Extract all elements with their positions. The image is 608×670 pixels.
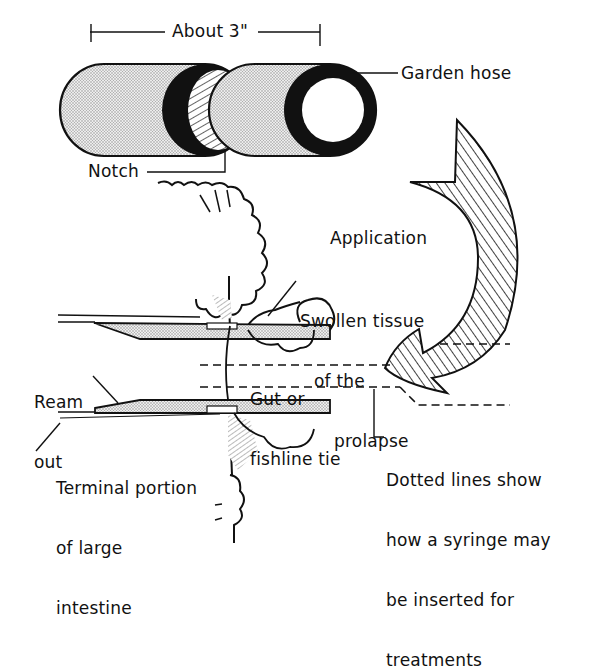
terminal-portion-line-3: intestine xyxy=(56,598,197,618)
note-line-4: treatments xyxy=(386,650,551,670)
gut-tie-label: Gut or fishline tie xyxy=(250,349,341,489)
terminal-portion-line-2: of large xyxy=(56,538,197,558)
dimension-label: About 3" xyxy=(172,21,248,41)
terminal-portion-label: Terminal portion of large intestine xyxy=(56,438,197,638)
terminal-portion-line-1: Terminal portion xyxy=(56,478,197,498)
hose-section-end xyxy=(209,64,376,156)
garden-hose-label: Garden hose xyxy=(401,63,511,83)
note-line-1: Dotted lines show xyxy=(386,470,551,490)
tissue-dash-marks xyxy=(200,190,230,520)
application-label: Application xyxy=(330,228,427,248)
gut-tie-line-2: fishline tie xyxy=(250,449,341,469)
note-line-2: how a syringe may xyxy=(386,530,551,550)
hose-inserted-upper xyxy=(58,315,330,351)
notch-label: Notch xyxy=(88,161,139,181)
swollen-tissue-line-1: Swollen tissue xyxy=(300,311,424,331)
gut-tie-line-1: Gut or xyxy=(250,389,341,409)
dotted-lines-note: Dotted lines show how a syringe may be i… xyxy=(386,430,551,670)
ream-out-line-1: Ream xyxy=(34,392,83,412)
note-line-3: be inserted for xyxy=(386,590,551,610)
